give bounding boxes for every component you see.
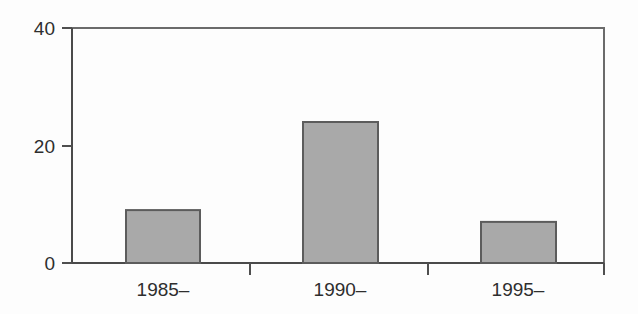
x-tick-label-1985: 1985–	[137, 279, 190, 300]
bar-chart: 40 20 0 1985– 1990– 1995–	[0, 0, 638, 314]
bar-1995	[481, 222, 556, 263]
chart-canvas: 40 20 0 1985– 1990– 1995–	[0, 0, 638, 314]
y-tick-label-40: 40	[34, 18, 55, 39]
x-tick-label-1990: 1990–	[314, 279, 367, 300]
y-tick-label-20: 20	[34, 136, 55, 157]
bar-1990	[303, 122, 378, 263]
x-tick-label-1995: 1995–	[492, 279, 545, 300]
y-tick-label-0: 0	[44, 253, 55, 274]
bar-1985	[126, 210, 200, 263]
